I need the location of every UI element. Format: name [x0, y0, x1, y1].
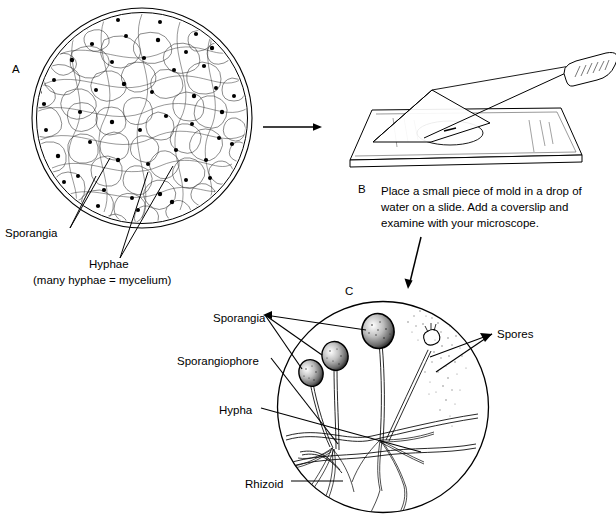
label-rhizoid-c: Rhizoid — [245, 477, 283, 492]
label-sporangia-a: Sporangia — [5, 226, 57, 241]
panel-b-letter: B — [358, 183, 366, 195]
arrow-a-to-b — [263, 123, 322, 131]
panel-a-letter: A — [12, 63, 20, 75]
panel-c-microscopic-view — [261, 302, 492, 515]
panel-b-caption: Place a small piece of mold in a drop of… — [381, 183, 611, 231]
panel-c-letter: C — [345, 285, 353, 297]
label-hypha-c: Hypha — [219, 403, 252, 418]
mold-diagram-figure: A Sporangia Hyphae (many hyphae = myceli… — [0, 0, 616, 529]
label-spores-c: Spores — [497, 327, 533, 342]
label-sporangia-c: Sporangia — [213, 311, 265, 326]
panel-a-petri-dish — [30, 8, 252, 258]
label-sporangiophore-c: Sporangiophore — [177, 354, 259, 369]
panel-b-slide-preparation — [350, 53, 616, 168]
arrow-b-to-c — [405, 237, 422, 289]
label-hyphae-a: Hyphae — [89, 257, 129, 272]
label-mycelium-note-a: (many hyphae = mycelium) — [33, 273, 171, 288]
